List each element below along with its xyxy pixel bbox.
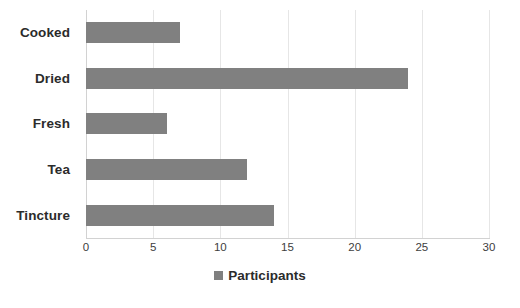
- x-axis-line: [86, 238, 490, 239]
- y-axis-label-text: Tincture: [16, 208, 70, 223]
- gridline-30: [489, 10, 490, 238]
- y-axis-label-tincture: Tincture: [0, 192, 78, 238]
- bar-tea[interactable]: [86, 159, 247, 180]
- legend-label-participants: Participants: [228, 268, 305, 283]
- x-tick-label-10: 10: [214, 241, 227, 253]
- y-axis-label-tea: Tea: [0, 147, 78, 193]
- x-tick-label-20: 20: [348, 241, 361, 253]
- bar-series-participants: [86, 10, 489, 238]
- y-axis-label-text: Tea: [47, 162, 70, 177]
- plot-area: [86, 10, 489, 238]
- bar-fresh[interactable]: [86, 113, 167, 134]
- y-axis-label-cooked: Cooked: [0, 10, 78, 56]
- bar-band-cooked: [86, 10, 489, 56]
- bar-band-tincture: [86, 192, 489, 238]
- x-tick-label-15: 15: [281, 241, 294, 253]
- x-tick-label-25: 25: [415, 241, 428, 253]
- y-axis-label-text: Cooked: [20, 25, 70, 40]
- legend-swatch-icon: [214, 271, 223, 280]
- x-tick-label-5: 5: [150, 241, 156, 253]
- y-axis-label-fresh: Fresh: [0, 101, 78, 147]
- y-axis-label-text: Dried: [35, 71, 70, 86]
- y-axis-label-text: Fresh: [33, 116, 70, 131]
- y-axis-label-dried: Dried: [0, 56, 78, 102]
- bar-band-tea: [86, 147, 489, 193]
- bar-cooked[interactable]: [86, 22, 180, 43]
- x-tick-label-0: 0: [83, 241, 89, 253]
- bar-band-fresh: [86, 101, 489, 147]
- bar-dried[interactable]: [86, 68, 408, 89]
- y-axis-category-labels: Cooked Dried Fresh Tea Tincture: [0, 10, 78, 238]
- x-axis-tick-labels: 051015202530: [86, 241, 489, 261]
- bar-tincture[interactable]: [86, 205, 274, 226]
- bar-chart: Cooked Dried Fresh Tea Tincture 05101520…: [0, 0, 520, 308]
- bar-band-dried: [86, 56, 489, 102]
- chart-legend: Participants: [0, 268, 520, 283]
- x-tick-label-30: 30: [483, 241, 496, 253]
